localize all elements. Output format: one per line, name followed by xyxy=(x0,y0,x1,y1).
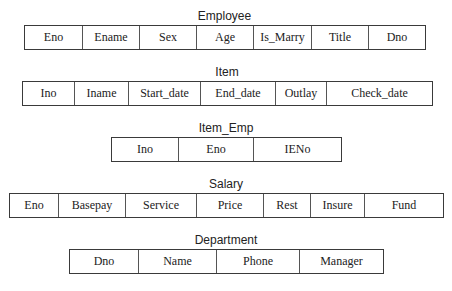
employee-field-age: Age xyxy=(197,26,254,49)
item-field-ino: Ino xyxy=(23,82,75,105)
salary-field-insure: Insure xyxy=(311,194,365,217)
employee-table-title: Employee xyxy=(24,9,425,23)
item-field-check-date: Check_date xyxy=(327,82,432,105)
item-emp-table: Ino Eno IENo xyxy=(111,137,342,162)
employee-field-sex: Sex xyxy=(140,26,197,49)
salary-field-rest: Rest xyxy=(264,194,311,217)
department-field-phone: Phone xyxy=(217,250,300,273)
department-table-title: Department xyxy=(69,233,383,247)
department-field-name: Name xyxy=(139,250,217,273)
item-emp-table-title: Item_Emp xyxy=(111,121,341,135)
salary-table-title: Salary xyxy=(9,177,443,191)
salary-table: Eno Basepay Service Price Rest Insure Fu… xyxy=(9,193,444,218)
item-field-outlay: Outlay xyxy=(276,82,327,105)
item-table-title: Item xyxy=(22,65,432,79)
item-table: Ino Iname Start_date End_date Outlay Che… xyxy=(22,81,433,106)
employee-field-ename: Ename xyxy=(83,26,140,49)
employee-table: Eno Ename Sex Age Is_Marry Title Dno xyxy=(24,25,426,50)
salary-field-service: Service xyxy=(126,194,197,217)
department-table: Dno Name Phone Manager xyxy=(69,249,384,274)
item-emp-field-eno: Eno xyxy=(179,138,254,161)
salary-field-basepay: Basepay xyxy=(59,194,126,217)
item-field-start-date: Start_date xyxy=(129,82,201,105)
employee-field-dno: Dno xyxy=(369,26,425,49)
salary-field-eno: Eno xyxy=(10,194,59,217)
employee-field-title: Title xyxy=(312,26,369,49)
item-field-end-date: End_date xyxy=(201,82,276,105)
salary-field-price: Price xyxy=(197,194,264,217)
item-field-iname: Iname xyxy=(75,82,129,105)
item-emp-field-ieno: IENo xyxy=(254,138,341,161)
salary-field-fund: Fund xyxy=(365,194,443,217)
employee-field-is-marry: Is_Marry xyxy=(254,26,312,49)
item-emp-field-ino: Ino xyxy=(112,138,179,161)
employee-field-eno: Eno xyxy=(25,26,83,49)
department-field-manager: Manager xyxy=(300,250,383,273)
department-field-dno: Dno xyxy=(70,250,139,273)
